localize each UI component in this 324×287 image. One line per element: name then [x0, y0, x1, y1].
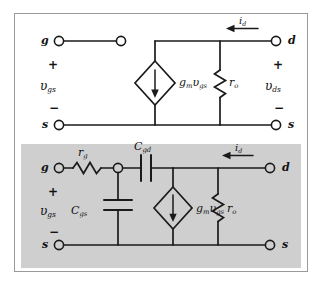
label-terminal-source-right: s	[282, 239, 288, 250]
label-vgs-minus: −	[49, 226, 59, 238]
node-internal-gate	[113, 163, 122, 172]
label-id-current: id	[235, 143, 242, 154]
label-vds-minus: −	[274, 102, 284, 114]
label-terminal-drain: d	[288, 35, 296, 46]
node-source-left	[54, 120, 63, 129]
label-vgs-minus: −	[49, 102, 59, 114]
label-vgs-plus: +	[48, 59, 58, 71]
label-cgs: Cgs	[71, 205, 87, 218]
high-frequency-circuit-schematic	[21, 144, 301, 268]
label-vgs: υgs	[40, 205, 56, 218]
node-source-right	[265, 240, 274, 249]
label-vgs: υgs	[40, 80, 56, 93]
label-rg: rg	[78, 147, 88, 160]
current-source-arrow-head	[151, 90, 159, 99]
label-vgs-plus: +	[48, 186, 58, 198]
label-gm-vgs: gmυgs	[179, 77, 207, 90]
label-vds-plus: +	[273, 59, 283, 71]
node-drain	[265, 163, 274, 172]
label-terminal-gate: g	[41, 35, 49, 46]
low-frequency-model-panel: g d s s + υgs − + υds − gmυgs ro id	[15, 14, 307, 142]
label-vds: υds	[265, 80, 281, 93]
resistor-rg-zigzag	[73, 163, 101, 174]
label-ro: ro	[227, 203, 236, 216]
label-terminal-source-left: s	[42, 119, 48, 130]
label-cgd: Cgd	[134, 141, 151, 154]
label-terminal-source-left: s	[42, 239, 48, 250]
node-source-right	[271, 120, 280, 129]
node-gate	[54, 163, 63, 172]
current-id-arrow-head	[222, 152, 231, 160]
label-terminal-source-right: s	[288, 119, 294, 130]
current-id-arrow-head	[226, 25, 235, 33]
label-id-current: id	[239, 16, 246, 27]
label-terminal-drain: d	[282, 162, 290, 173]
resistor-ro-zigzag	[215, 70, 226, 98]
label-terminal-gate: g	[41, 162, 49, 173]
figure-frame: g d s s + υgs − + υds − gmυgs ro id	[14, 13, 308, 272]
node-gate	[54, 36, 63, 45]
high-frequency-model-panel: g d s s rg Cgd + υgs − Cgs gmυgs ro id	[21, 144, 301, 268]
current-source-arrow-head	[169, 214, 176, 222]
label-ro: ro	[229, 77, 238, 90]
label-gm-vgs: gmυgs	[196, 203, 224, 216]
node-source-left	[54, 240, 63, 249]
node-gate-open	[116, 36, 125, 45]
node-drain	[271, 36, 280, 45]
low-frequency-circuit-schematic	[15, 14, 307, 142]
